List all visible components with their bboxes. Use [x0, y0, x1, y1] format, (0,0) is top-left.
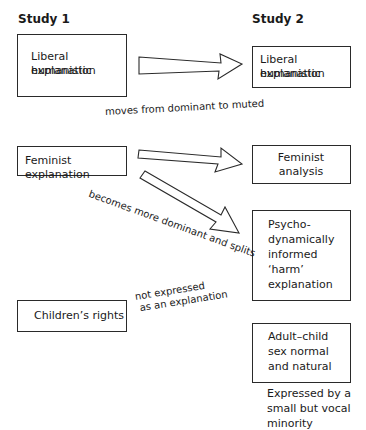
arrows-layer: [0, 0, 366, 430]
arrow-feminist-to-feminist-analysis: [138, 148, 242, 172]
arrow-liberal-to-liberal: [139, 54, 242, 79]
